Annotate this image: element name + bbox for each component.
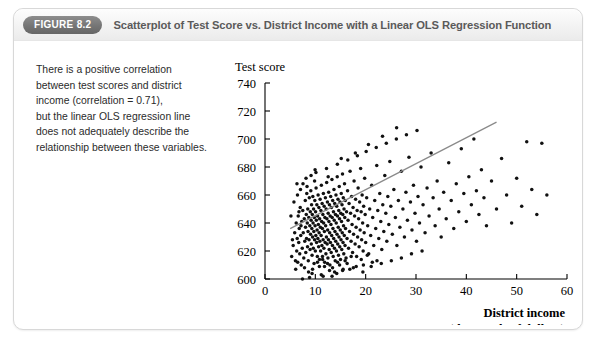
data-point: [322, 246, 326, 250]
data-point: [308, 196, 312, 200]
data-point: [325, 235, 329, 239]
data-point: [346, 189, 350, 193]
data-point: [358, 228, 362, 232]
data-point: [372, 244, 376, 248]
data-point: [306, 221, 310, 225]
data-point: [395, 244, 399, 248]
data-point: [447, 161, 451, 165]
data-point: [371, 216, 375, 220]
data-point: [354, 151, 358, 155]
x-tick-label: 50: [510, 284, 522, 298]
data-point: [465, 220, 469, 224]
data-point: [407, 155, 411, 159]
x-tick-label: 10: [309, 284, 322, 298]
data-point: [380, 262, 384, 266]
data-point: [482, 196, 486, 200]
data-point: [327, 190, 331, 194]
data-point: [291, 244, 295, 248]
data-point: [359, 167, 363, 171]
data-point: [340, 248, 344, 252]
data-point: [361, 270, 365, 274]
data-point: [349, 239, 353, 243]
data-point: [418, 221, 422, 225]
data-point: [341, 241, 345, 245]
data-point: [367, 143, 371, 147]
data-point: [340, 220, 344, 224]
data-point: [316, 260, 320, 264]
data-point: [378, 192, 382, 196]
data-point: [338, 245, 342, 249]
data-point: [319, 249, 323, 253]
data-point: [415, 129, 419, 133]
data-point: [339, 258, 343, 262]
data-point: [353, 242, 357, 246]
data-point: [321, 213, 325, 217]
data-point: [307, 238, 311, 242]
data-point: [485, 224, 489, 228]
data-point: [349, 211, 353, 215]
data-point: [312, 207, 316, 211]
data-point: [333, 270, 337, 274]
data-point: [385, 239, 389, 243]
data-point: [472, 137, 476, 141]
data-point: [329, 223, 333, 227]
data-point: [357, 217, 361, 221]
data-point: [318, 197, 322, 201]
data-point: [319, 234, 323, 238]
data-point: [362, 263, 366, 267]
data-point: [315, 241, 319, 245]
data-point: [317, 245, 321, 249]
data-point: [292, 200, 296, 204]
x-tick-label: 40: [460, 284, 473, 298]
data-point: [405, 133, 409, 137]
data-point: [409, 200, 413, 204]
data-point: [323, 230, 327, 234]
data-point: [395, 126, 399, 130]
data-point: [359, 210, 363, 214]
data-point: [316, 193, 320, 197]
data-point: [316, 255, 320, 259]
data-point: [429, 151, 433, 155]
data-point: [545, 193, 549, 197]
data-point: [326, 256, 330, 260]
data-point: [348, 169, 352, 173]
data-point: [301, 209, 305, 213]
data-point: [318, 217, 322, 221]
data-point: [341, 231, 345, 235]
data-point: [301, 246, 305, 250]
data-point: [334, 193, 338, 197]
data-point: [321, 227, 325, 231]
data-point: [412, 183, 416, 187]
data-point: [299, 263, 303, 267]
data-point: [520, 204, 524, 208]
data-point: [495, 207, 499, 211]
data-point: [333, 246, 337, 250]
data-point: [345, 237, 349, 241]
data-point: [322, 192, 326, 196]
data-point: [314, 249, 318, 253]
data-point: [316, 237, 320, 241]
data-point: [298, 252, 302, 256]
data-point: [332, 188, 336, 192]
caption-line: relationship between these variables.: [36, 140, 222, 156]
data-point: [360, 238, 364, 242]
data-point: [338, 217, 342, 221]
data-point: [331, 244, 335, 248]
data-point: [321, 255, 325, 259]
data-point: [342, 207, 346, 211]
data-point: [437, 207, 441, 211]
data-point: [470, 203, 474, 207]
data-point: [363, 213, 367, 217]
data-point: [480, 168, 484, 172]
data-point: [332, 218, 336, 222]
data-point: [305, 192, 309, 196]
data-point: [299, 234, 303, 238]
data-point: [340, 192, 344, 196]
data-point: [325, 167, 329, 171]
data-point: [339, 238, 343, 242]
data-point: [307, 259, 311, 263]
y-tick-label: 720: [237, 105, 256, 119]
data-point: [324, 196, 328, 200]
data-point: [326, 200, 330, 204]
data-point: [452, 227, 456, 231]
